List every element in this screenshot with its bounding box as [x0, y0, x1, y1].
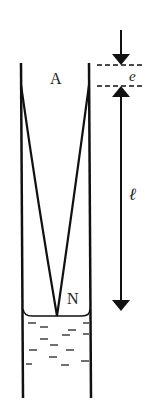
water-body — [26, 323, 89, 365]
wave-envelope-left — [21, 85, 57, 316]
resonance-tube-diagram: A N e ℓ — [0, 0, 159, 406]
arrow-down-icon — [112, 54, 130, 65]
wave-envelope-right — [57, 85, 89, 316]
tube-left-wall — [21, 63, 23, 398]
label-point-a: A — [50, 70, 62, 87]
label-length: ℓ — [129, 185, 136, 204]
label-point-n: N — [67, 290, 79, 307]
tube-right-wall — [89, 63, 91, 398]
arrow-down-icon — [112, 300, 130, 311]
label-end-correction: e — [129, 68, 136, 84]
